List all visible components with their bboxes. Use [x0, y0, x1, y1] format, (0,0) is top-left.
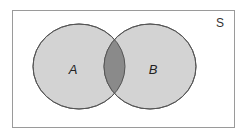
set-b-label: B: [149, 62, 158, 77]
set-a-label: A: [68, 62, 78, 77]
universe-label: S: [216, 16, 224, 30]
venn-diagram: A B S: [0, 0, 245, 129]
